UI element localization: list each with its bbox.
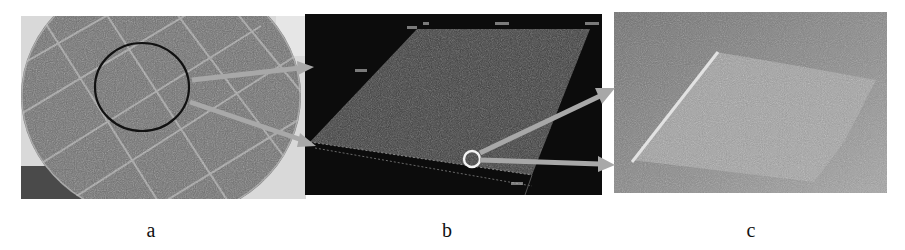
panel-label-a: a: [136, 219, 166, 242]
panel-c-magnified-view: [614, 12, 887, 193]
magnified-view-image: [614, 12, 887, 193]
panel-a-sample-photo: [21, 16, 306, 199]
panel-label-b: b: [432, 219, 462, 242]
panel-label-c: c: [736, 219, 766, 242]
panel-b-3d-scan: [305, 14, 602, 195]
3d-scan-image: [305, 14, 602, 195]
sample-photo-image: [21, 16, 306, 199]
